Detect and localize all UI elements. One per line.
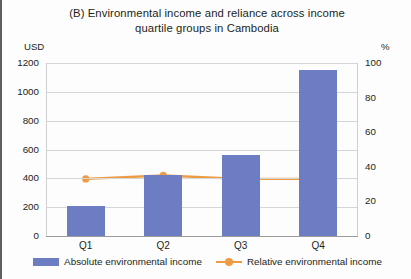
chart-figure: (B) Environmental income and reliance ac… <box>0 0 411 279</box>
secondary-y-axis-tick-label: 0 <box>365 230 395 241</box>
legend-bar-swatch-icon <box>33 258 59 266</box>
secondary-y-axis-tick-label: 60 <box>365 126 395 137</box>
y-axis-tick-label: 400 <box>5 172 39 183</box>
gridline <box>47 63 357 64</box>
bar-q3 <box>222 155 260 236</box>
y-axis-tick-label: 0 <box>5 230 39 241</box>
x-axis-tick-label-q2: Q2 <box>133 240 193 251</box>
left-axis-unit-label: USD <box>24 41 44 52</box>
plot-area <box>47 63 357 236</box>
bar-q1 <box>67 206 105 236</box>
secondary-y-axis-tick-label: 40 <box>365 161 395 172</box>
bar-q4 <box>299 70 337 236</box>
legend-item-relative[interactable]: Relative environmental income <box>216 256 382 267</box>
secondary-y-axis-tick-label: 100 <box>365 57 395 68</box>
legend-line-marker-icon <box>216 257 242 266</box>
secondary-y-axis-tick-label: 20 <box>365 195 395 206</box>
bar-q2 <box>144 175 182 236</box>
right-axis-unit-label: % <box>381 41 390 52</box>
legend-item-label: Absolute environmental income <box>64 256 202 267</box>
chart-legend: Absolute environmental incomeRelative en… <box>2 256 411 267</box>
x-axis-tick-label-q4: Q4 <box>288 240 348 251</box>
chart-title-line-1: (B) Environmental income and reliance ac… <box>48 6 366 21</box>
y-axis-tick-label: 600 <box>5 144 39 155</box>
y-axis-tick-label: 800 <box>5 115 39 126</box>
legend-item-absolute[interactable]: Absolute environmental income <box>33 256 202 267</box>
y-axis-tick-label: 1000 <box>5 86 39 97</box>
plot-right-border <box>357 63 358 237</box>
legend-item-label: Relative environmental income <box>247 256 382 267</box>
y-axis-tick-label: 200 <box>5 201 39 212</box>
x-axis-tick-label-q1: Q1 <box>56 240 116 251</box>
x-axis-baseline <box>46 236 358 237</box>
x-axis-tick-label-q3: Q3 <box>211 240 271 251</box>
y-axis-tick-label: 1200 <box>5 57 39 68</box>
chart-title: (B) Environmental income and reliance ac… <box>48 6 366 35</box>
secondary-y-axis-tick-label: 80 <box>365 92 395 103</box>
chart-title-line-2: quartile groups in Cambodia <box>48 21 366 36</box>
